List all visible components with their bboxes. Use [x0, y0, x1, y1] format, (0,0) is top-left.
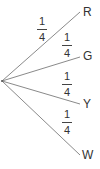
- numerator: 1: [61, 109, 73, 120]
- probability-y: 1 4: [61, 71, 73, 98]
- tree-lines: [0, 0, 100, 169]
- probability-w: 1 4: [61, 109, 73, 136]
- denominator: 4: [61, 125, 73, 136]
- outcome-label-y: Y: [83, 98, 91, 110]
- denominator: 4: [61, 87, 73, 98]
- outcome-label-w: W: [82, 149, 93, 161]
- fraction-bar: [62, 84, 72, 85]
- numerator: 1: [61, 32, 73, 43]
- fraction-bar: [62, 45, 72, 46]
- root-node: [1, 80, 3, 82]
- denominator: 4: [36, 32, 48, 43]
- numerator: 1: [61, 71, 73, 82]
- numerator: 1: [36, 16, 48, 27]
- outcome-label-r: R: [83, 6, 92, 18]
- fraction-bar: [37, 29, 47, 30]
- probability-r: 1 4: [36, 16, 48, 43]
- fraction-bar: [62, 122, 72, 123]
- denominator: 4: [61, 48, 73, 59]
- probability-g: 1 4: [61, 32, 73, 59]
- outcome-label-g: G: [83, 50, 92, 62]
